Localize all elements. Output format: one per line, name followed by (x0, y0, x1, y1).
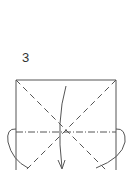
origami-diagram (0, 0, 128, 170)
valley-fold-diagonals (16, 80, 116, 170)
fold-arrow-left (8, 129, 28, 168)
paper-square (16, 80, 116, 170)
fold-arrow-right (96, 129, 125, 168)
fold-arrow-center (58, 86, 66, 169)
